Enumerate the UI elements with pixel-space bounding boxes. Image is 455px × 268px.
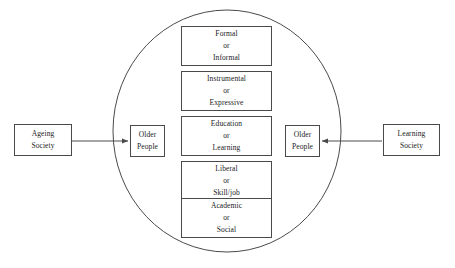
dimension-formal-line-2: or — [223, 40, 229, 52]
node-dimension-liberal: Liberal or Skill/job — [181, 161, 272, 201]
dimension-liberal-line-1: Liberal — [215, 163, 237, 175]
older-people-left-line-1: Older — [139, 129, 157, 141]
learning-society-line-1: Learning — [398, 128, 426, 140]
dimension-academic-line-2: or — [223, 212, 229, 224]
older-people-left-line-2: People — [137, 141, 158, 153]
dimension-instrumental-line-2: or — [223, 85, 229, 97]
dimension-liberal-line-3: Skill/job — [213, 187, 240, 199]
ageing-society-line-2: Society — [31, 140, 54, 152]
learning-society-line-2: Society — [400, 140, 423, 152]
dimension-academic-line-1: Academic — [211, 200, 242, 212]
dimension-formal-line-1: Formal — [215, 28, 237, 40]
diagram-canvas: Ageing Society Older People Older People… — [0, 0, 455, 268]
node-learning-society: Learning Society — [383, 124, 440, 156]
older-people-right-line-1: Older — [294, 129, 312, 141]
dimension-instrumental-line-1: Instrumental — [207, 73, 246, 85]
node-older-people-left: Older People — [130, 125, 165, 157]
dimension-liberal-line-2: or — [223, 175, 229, 187]
node-dimension-education: Education or Learning — [181, 116, 272, 156]
node-dimension-academic: Academic or Social — [181, 198, 272, 238]
dimension-formal-line-3: Informal — [213, 52, 240, 64]
dimension-education-line-2: or — [223, 130, 229, 142]
node-older-people-right: Older People — [285, 125, 320, 157]
dimension-instrumental-line-3: Expressive — [210, 97, 244, 109]
ageing-society-line-1: Ageing — [32, 128, 55, 140]
node-ageing-society: Ageing Society — [14, 124, 72, 156]
older-people-right-line-2: People — [292, 141, 313, 153]
dimension-academic-line-3: Social — [217, 224, 236, 236]
dimension-education-line-1: Education — [211, 118, 242, 130]
node-dimension-formal: Formal or Informal — [181, 26, 272, 66]
node-dimension-instrumental: Instrumental or Expressive — [181, 71, 272, 111]
dimension-education-line-3: Learning — [213, 142, 241, 154]
